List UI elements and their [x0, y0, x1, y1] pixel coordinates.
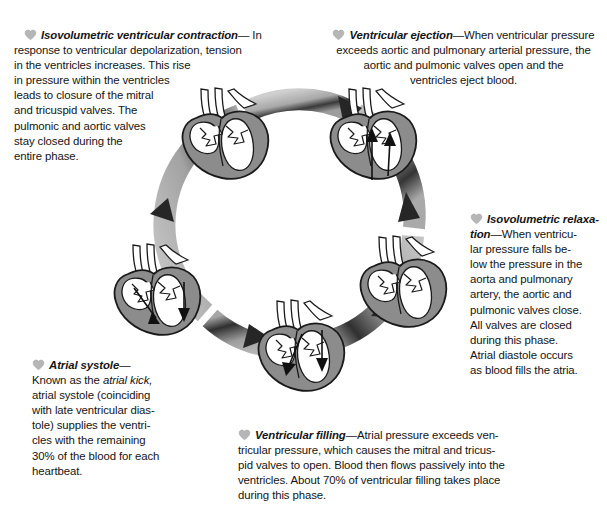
- phase-line: in the ventricles increases. This rise: [14, 58, 308, 73]
- phase-line: during this phase.: [470, 333, 607, 348]
- phase-line: cles with the remaining: [32, 433, 218, 448]
- phase-line: 30% of the blood for each: [32, 449, 218, 464]
- phase-line: aorta and pulmonary: [470, 272, 607, 287]
- phase-line: lar pressure falls be-: [470, 242, 607, 257]
- phase-line: response to ventricular depolarization, …: [14, 43, 308, 58]
- phase-label-isovolumetric-relaxation: Isovolumetric relaxa- tion—When ventricu…: [470, 212, 607, 378]
- phase-label-ventricular-filling: Ventricular filling—Atrial pressure exce…: [238, 428, 607, 503]
- phase-line: pulmonic and aortic valves: [14, 119, 308, 134]
- phase-line: atrial systole (coinciding: [32, 388, 218, 403]
- phase-line: ventricles. About 70% of ventricular fil…: [238, 473, 607, 488]
- phase-line: entire phase.: [14, 149, 308, 164]
- heart-icon: [470, 212, 483, 225]
- phase-line: aortic and pulmonic valves open and the: [322, 58, 605, 73]
- phase-line: during this phase.: [238, 488, 607, 503]
- phase-emphasis-atrial-kick: atrial kick,: [103, 374, 152, 386]
- phase-line: stay closed during the: [14, 134, 308, 149]
- phase-line: leads to closure of the mitral: [14, 88, 308, 103]
- phase-line: low the pressure in the: [470, 257, 607, 272]
- phase-dash-ve: —When ventricular pressure: [453, 29, 595, 41]
- phase-lead-as: Atrial systole: [49, 359, 119, 371]
- phase-line: tole) supplies the ventri-: [32, 418, 218, 433]
- phase-line: Known as the: [32, 374, 103, 386]
- heart-icon: [332, 28, 345, 41]
- heart-icon: [238, 428, 251, 441]
- phase-dash-vf: —Atrial pressure exceeds ven-: [346, 429, 499, 441]
- phase-label-atrial-systole: Atrial systole— Known as the atrial kick…: [32, 358, 218, 479]
- heart-icon: [32, 358, 45, 371]
- phase-line: heartbeat.: [32, 464, 218, 479]
- heart-icon: [24, 28, 37, 41]
- phase-lead-ir: Isovolumetric relaxa-: [487, 213, 599, 225]
- cardiac-cycle-figure: Isovolumetric ventricular contraction— I…: [0, 0, 607, 509]
- heart-atrial-systole: [115, 244, 201, 335]
- phase-line: pulmonic valves close.: [470, 303, 607, 318]
- phase-line: tricular pressure, which causes the mitr…: [238, 443, 607, 458]
- phase-label-ventricular-ejection: Ventricular ejection—When ventricular pr…: [322, 28, 605, 88]
- phase-label-isovolumetric-ventricular-contraction: Isovolumetric ventricular contraction— I…: [14, 28, 308, 164]
- phase-line: and tricuspid valves. The: [14, 103, 308, 118]
- phase-lead-vf: Ventricular filling: [255, 429, 346, 441]
- phase-lead-ir-cont: tion: [470, 228, 490, 240]
- phase-dash-as: —: [119, 359, 130, 371]
- phase-line: pid valves to open. Blood then flows pas…: [238, 458, 607, 473]
- phase-lead-ve: Ventricular ejection: [349, 29, 452, 41]
- phase-line: in pressure within the ventricles: [14, 73, 308, 88]
- phase-line: Atrial diastole occurs: [470, 348, 607, 363]
- phase-line: exceeds aortic and pulmonary arterial pr…: [322, 43, 605, 58]
- phase-dash-ir: —When ventricu-: [490, 228, 577, 240]
- phase-dash-ivc: — In: [238, 29, 262, 41]
- phase-line: as blood fills the atria.: [470, 363, 607, 378]
- phase-line: with late ventricular dias-: [32, 403, 218, 418]
- phase-line: artery, the aortic and: [470, 287, 607, 302]
- heart-ventricular-filling: [259, 300, 345, 391]
- phase-line: ventricles eject blood.: [322, 73, 605, 88]
- phase-lead-ivc: Isovolumetric ventricular contraction: [41, 29, 238, 41]
- phase-line: All valves are closed: [470, 318, 607, 333]
